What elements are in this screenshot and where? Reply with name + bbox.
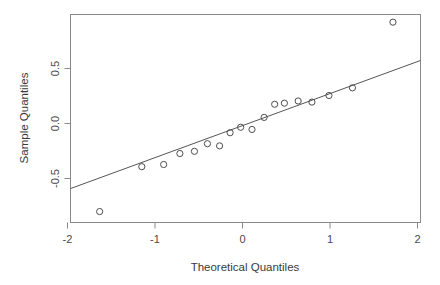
y-tick-label: -0.5 <box>49 169 61 188</box>
x-tick-label: 1 <box>327 233 333 245</box>
y-axis-title: Sample Quantiles <box>18 72 30 163</box>
x-axis-title: Theoretical Quantiles <box>191 261 300 273</box>
x-tick-label: 2 <box>414 233 420 245</box>
x-tick-label: 0 <box>239 233 245 245</box>
qq-plot-canvas: -2 -1 0 1 2 0.5 0.0 -0.5 Theoretical Qua… <box>0 0 440 285</box>
y-tick-label: 0.5 <box>49 61 61 76</box>
x-tick-label: -1 <box>150 233 160 245</box>
y-tick-label: 0.0 <box>49 116 61 131</box>
qq-plot-figure: -2 -1 0 1 2 0.5 0.0 -0.5 Theoretical Qua… <box>0 0 440 285</box>
x-tick-label: -2 <box>63 233 73 245</box>
